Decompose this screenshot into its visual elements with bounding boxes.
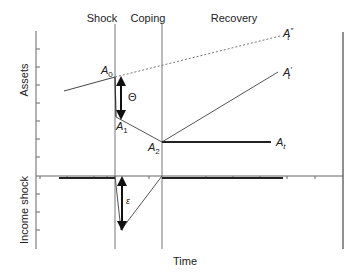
counterfactual-asset-path xyxy=(115,36,280,77)
phase-label-shock: Shock xyxy=(87,12,118,24)
pre-shock-asset-line xyxy=(64,77,115,91)
recovery-path-line xyxy=(162,72,278,142)
assets-axis-label: Assets xyxy=(18,63,30,97)
income-shock-axis-label: Income shock xyxy=(18,176,30,244)
point-label-at-dprime: A″t xyxy=(282,26,294,42)
epsilon-label: ε xyxy=(126,196,131,206)
point-label-a0: A0 xyxy=(100,64,113,79)
y-axis xyxy=(36,31,40,249)
shock-coping-recovery-diagram: Shock Coping Recovery Assets Income shoc… xyxy=(0,0,360,277)
phase-label-coping: Coping xyxy=(131,12,166,24)
point-label-at: At xyxy=(275,136,286,151)
point-label-a2: A2 xyxy=(147,141,160,156)
time-axis-label: Time xyxy=(173,255,197,267)
point-label-at-prime: A′t xyxy=(282,65,292,81)
phase-label-recovery: Recovery xyxy=(211,12,258,24)
theta-label: Θ xyxy=(128,91,137,103)
